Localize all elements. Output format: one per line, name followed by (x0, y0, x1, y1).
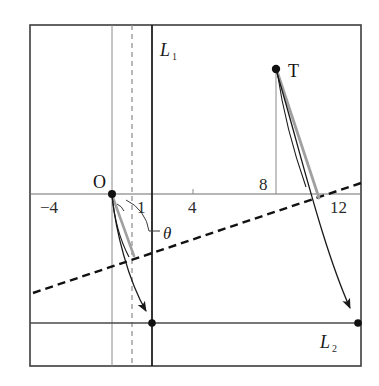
point-T-marker (272, 65, 280, 73)
tick-label-4: 4 (188, 198, 197, 217)
line-L2-label-main: L (319, 332, 330, 352)
point-foot-left-marker (148, 319, 156, 327)
line-L1-label-main: L (159, 40, 170, 60)
line-L1-label-sub: 1 (172, 51, 177, 62)
line-L2-label-sub: 2 (332, 343, 337, 354)
point-O-marker (108, 190, 116, 198)
figure-container: O T −4 1 4 8 12 θ L 1 L 2 (0, 0, 379, 386)
tick-label-12: 12 (330, 198, 347, 217)
tick-label-1: 1 (137, 198, 146, 217)
canvas-background (0, 0, 379, 386)
tick-label-8: 8 (259, 175, 268, 194)
point-foot-right-marker (354, 319, 362, 327)
theta-label: θ (163, 224, 171, 243)
tick-label-minus4: −4 (40, 198, 59, 217)
point-O-label: O (93, 172, 106, 192)
geometry-diagram: O T −4 1 4 8 12 θ L 1 L 2 (0, 0, 379, 386)
point-T-label: T (288, 61, 299, 81)
